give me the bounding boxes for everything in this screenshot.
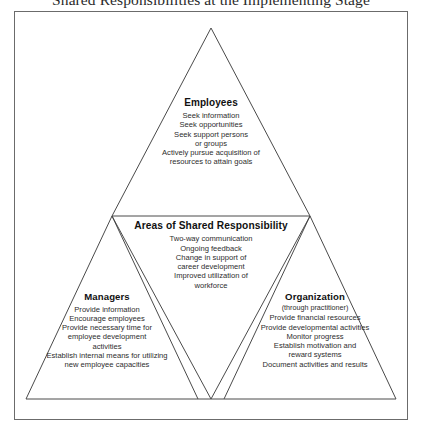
employees-item: Actively pursue acquisition of bbox=[111, 148, 311, 157]
managers-item: Provide necessary time for bbox=[14, 323, 200, 332]
employees-heading: Employees bbox=[111, 97, 311, 109]
managers-item: activities bbox=[14, 342, 200, 351]
shared-responsibility-item: career development bbox=[96, 262, 326, 271]
managers-block: Managers Provide information Encourage e… bbox=[14, 291, 200, 369]
organization-block: Organization (through practitioner) Prov… bbox=[222, 291, 408, 369]
managers-item: Provide information bbox=[14, 305, 200, 314]
shared-responsibility-block: Areas of Shared Responsibility Two-way c… bbox=[96, 220, 326, 290]
shared-responsibility-item: Change in support of bbox=[96, 253, 326, 262]
employees-item: or groups bbox=[111, 139, 311, 148]
organization-item: Provide financial resources bbox=[222, 313, 408, 322]
shared-responsibility-item: Improved utilization of bbox=[96, 271, 326, 280]
managers-item: employee development bbox=[14, 332, 200, 341]
shared-responsibility-item: workforce bbox=[96, 281, 326, 290]
organization-item: Establish motivation and bbox=[222, 341, 408, 350]
shared-responsibility-item: Two-way communication bbox=[96, 234, 326, 243]
employees-item: Seek opportunities bbox=[111, 120, 311, 129]
managers-item: Encourage employees bbox=[14, 314, 200, 323]
organization-heading: Organization bbox=[222, 291, 408, 303]
employees-block: Employees Seek information Seek opportun… bbox=[111, 97, 311, 167]
managers-item: Establish internal means for utilizing bbox=[14, 351, 200, 360]
organization-item: reward systems bbox=[222, 350, 408, 359]
organization-item: Document activities and results bbox=[222, 360, 408, 369]
shared-responsibility-heading: Areas of Shared Responsibility bbox=[96, 220, 326, 232]
employees-item: Seek support persons bbox=[111, 130, 311, 139]
organization-subheading: (through practitioner) bbox=[222, 304, 408, 313]
employees-item: resources to attain goals bbox=[111, 157, 311, 166]
figure-title: Shared Responsibilities at the Implement… bbox=[0, 0, 422, 9]
organization-item: Monitor progress bbox=[222, 332, 408, 341]
employees-item: Seek information bbox=[111, 111, 311, 120]
managers-item: new employee capacities bbox=[14, 360, 200, 369]
organization-item: Provide developmental activities bbox=[222, 323, 408, 332]
managers-heading: Managers bbox=[14, 291, 200, 303]
shared-responsibility-item: Ongoing feedback bbox=[96, 244, 326, 253]
